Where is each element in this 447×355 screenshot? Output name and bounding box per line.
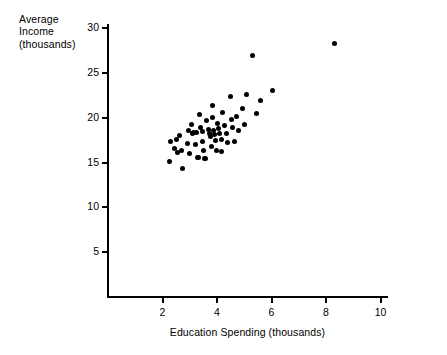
data-point <box>204 118 209 123</box>
data-point <box>250 53 255 58</box>
data-point <box>270 88 275 93</box>
data-point <box>219 149 224 154</box>
y-axis-line <box>107 24 109 298</box>
data-point <box>224 131 229 136</box>
data-point <box>172 146 177 151</box>
data-point <box>168 139 173 144</box>
data-point <box>207 131 212 136</box>
data-point <box>189 122 194 127</box>
y-tick-label: 15 <box>73 156 99 168</box>
x-tick-mark <box>162 298 164 303</box>
x-tick-label: 2 <box>150 306 176 318</box>
data-point <box>214 148 219 153</box>
data-point <box>228 94 233 99</box>
data-point <box>210 103 215 108</box>
data-point <box>230 125 235 130</box>
y-tick-label: 20 <box>73 111 99 123</box>
y-tick-mark <box>102 162 107 164</box>
data-point <box>222 123 227 128</box>
y-axis-label-line-2: Income <box>19 25 54 37</box>
x-tick-mark <box>216 298 218 303</box>
data-point <box>258 98 263 103</box>
data-point <box>190 131 195 136</box>
y-tick-label: 5 <box>73 245 99 257</box>
data-point <box>220 110 225 115</box>
y-axis-label: AverageIncome(thousands) <box>19 13 76 50</box>
data-point <box>206 127 211 132</box>
data-point <box>191 130 196 135</box>
data-point <box>200 129 205 134</box>
data-point <box>234 114 239 119</box>
data-point <box>215 121 220 126</box>
y-tick-mark <box>102 251 107 253</box>
x-tick-label: 8 <box>313 306 339 318</box>
x-axis-label: Education Spending (thousands) <box>0 326 447 338</box>
data-point <box>179 148 184 153</box>
data-point <box>209 144 214 149</box>
y-tick-mark <box>102 117 107 119</box>
y-tick-mark <box>102 27 107 29</box>
data-point <box>244 92 249 97</box>
data-point <box>211 128 216 133</box>
data-point <box>194 130 199 135</box>
data-point <box>200 139 205 144</box>
data-point <box>225 140 230 145</box>
data-point <box>213 138 218 143</box>
data-point <box>198 125 203 130</box>
data-point <box>177 133 182 138</box>
data-point <box>212 132 217 137</box>
data-point <box>201 148 206 153</box>
x-axis-line <box>107 296 388 298</box>
data-point <box>242 122 247 127</box>
y-axis-label-line-1: Average <box>19 13 59 25</box>
scatter-chart-figure: AverageIncome(thousands) 510152025302468… <box>0 0 447 355</box>
data-point <box>219 137 224 142</box>
data-point <box>236 128 241 133</box>
y-tick-label: 10 <box>73 200 99 212</box>
data-point <box>180 166 185 171</box>
x-tick-mark <box>271 298 273 303</box>
data-point <box>232 139 237 144</box>
x-tick-mark <box>325 298 327 303</box>
data-point <box>193 142 198 147</box>
data-point <box>208 134 213 139</box>
x-axis-label-text: Education Spending (thousands) <box>122 326 325 338</box>
data-point <box>217 131 222 136</box>
y-axis-label-line-3: (thousands) <box>19 38 76 50</box>
data-point <box>332 41 337 46</box>
data-point <box>187 151 192 156</box>
y-tick-label: 25 <box>73 66 99 78</box>
data-point <box>216 126 221 131</box>
data-point <box>167 159 172 164</box>
data-point <box>195 155 200 160</box>
x-tick-label: 6 <box>259 306 285 318</box>
x-tick-mark <box>380 298 382 303</box>
x-tick-label: 4 <box>204 306 230 318</box>
data-point <box>196 155 201 160</box>
data-point <box>254 111 259 116</box>
data-point <box>202 156 207 161</box>
data-point <box>240 106 245 111</box>
x-tick-label: 10 <box>368 306 394 318</box>
y-tick-mark <box>102 72 107 74</box>
y-tick-label: 30 <box>73 21 99 33</box>
y-tick-mark <box>102 206 107 208</box>
data-point <box>174 137 179 142</box>
data-point <box>229 117 234 122</box>
data-point <box>185 141 190 146</box>
data-point <box>203 156 208 161</box>
data-point <box>186 128 191 133</box>
data-point <box>197 112 202 117</box>
data-point <box>210 115 215 120</box>
data-point <box>175 150 180 155</box>
